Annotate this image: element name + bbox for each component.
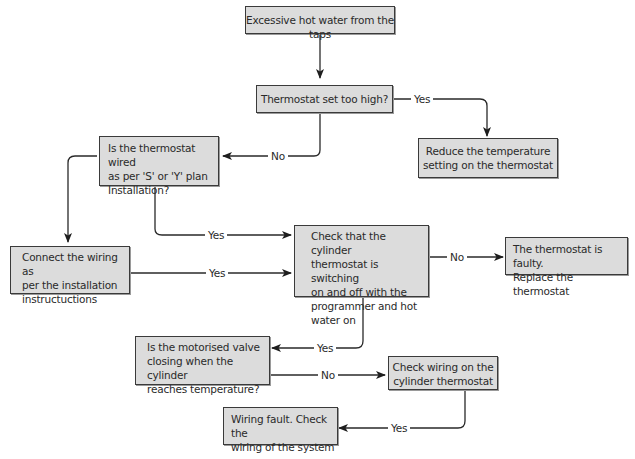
node-wired-plan: Is the thermostat wired as per 'S' or 'Y… (99, 136, 219, 186)
edge-wired-plan-to-connect (68, 156, 97, 242)
node-check-switching: Check that the cylinder thermostat is sw… (294, 225, 429, 297)
node-text: instructuctions (22, 292, 129, 306)
node-text: Check wiring on the (389, 360, 497, 374)
node-text: wiring of the system (231, 440, 337, 454)
node-connect-wiring: Connect the wiring as per the installati… (10, 246, 130, 294)
node-text: per the installation (22, 278, 129, 292)
node-text: Installation? (108, 183, 218, 197)
node-text: Is the thermostat wired (108, 141, 218, 169)
node-text: cylinder thermostat (389, 374, 497, 388)
node-wiring-fault: Wiring fault. Check the wiring of the sy… (223, 407, 338, 445)
node-text: on and off with the (311, 285, 428, 299)
node-reduce-temp: Reduce the temperature setting on the th… (418, 138, 558, 178)
node-check-wiring: Check wiring on the cylinder thermostat (388, 356, 498, 390)
edge-label-yes: Yes (314, 342, 336, 354)
edge-label-yes: Yes (388, 422, 410, 434)
edge-label-yes: Yes (411, 93, 433, 105)
node-text: reaches temperature? (147, 382, 269, 396)
node-text: Thermostat set too high? (257, 92, 392, 106)
node-text: Connect the wiring as (22, 250, 129, 278)
node-faulty: The thermostat is faulty. Replace the th… (505, 237, 628, 275)
edge-label-yes: Yes (206, 267, 228, 279)
node-text: thermostat is switching (311, 257, 428, 285)
node-text: Is the motorised valve (147, 340, 269, 354)
node-text: Reduce the temperature (419, 144, 557, 158)
node-start: Excessive hot water from the taps (245, 6, 395, 34)
node-text: Replace the thermostat (513, 270, 627, 298)
node-text: water on (311, 313, 428, 327)
edge-label-no: No (268, 150, 288, 162)
node-text: Wiring fault. Check the (231, 412, 337, 440)
node-text: The thermostat is faulty. (513, 242, 627, 270)
edge-label-no: No (318, 369, 338, 381)
node-thermostat-high: Thermostat set too high? (256, 85, 393, 113)
edge-label-yes: Yes (205, 229, 227, 241)
edge-label-no: No (447, 251, 467, 263)
node-text: closing when the cylinder (147, 354, 269, 382)
node-motorised-valve: Is the motorised valve closing when the … (135, 336, 270, 385)
node-text: Excessive hot water from the taps (246, 13, 394, 41)
node-text: as per 'S' or 'Y' plan (108, 169, 218, 183)
node-text: Check that the cylinder (311, 229, 428, 257)
node-text: setting on the thermostat (419, 158, 557, 172)
edge-thermostat-high-yes (393, 99, 487, 136)
node-text: programmer and hot (311, 299, 428, 313)
